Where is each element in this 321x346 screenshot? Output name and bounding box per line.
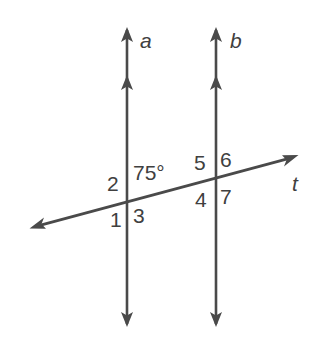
angle-2-label: 2 bbox=[107, 173, 119, 194]
angle-3-label: 3 bbox=[133, 205, 145, 226]
angle-1-label: 1 bbox=[110, 209, 122, 230]
line-t-label: t bbox=[292, 173, 298, 194]
line-b-label: b bbox=[230, 30, 242, 51]
line-a-label: a bbox=[140, 30, 152, 51]
angle-measure-75-label: 75° bbox=[133, 162, 165, 183]
geometry-figure: a b t 75° 2 1 3 5 6 4 7 bbox=[0, 0, 321, 346]
angle-5-label: 5 bbox=[194, 152, 206, 173]
angle-7-label: 7 bbox=[220, 186, 232, 207]
line-a-group bbox=[121, 27, 133, 327]
angle-4-label: 4 bbox=[195, 189, 207, 210]
angle-6-label: 6 bbox=[220, 149, 232, 170]
